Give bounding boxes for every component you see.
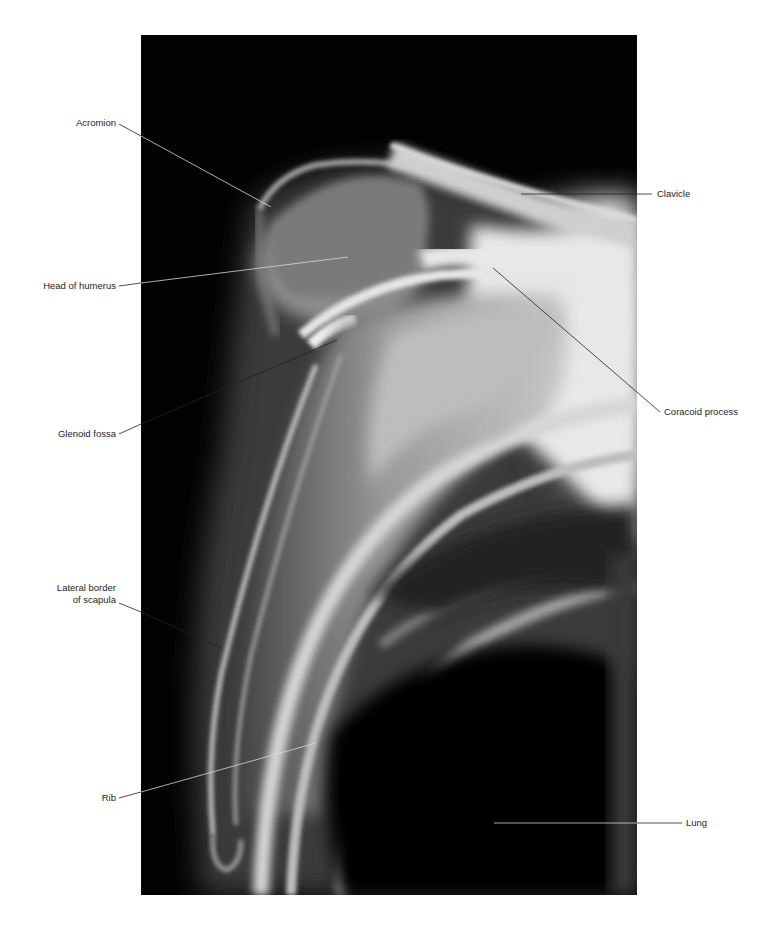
- leader-line-lateral-border: [119, 603, 141, 612]
- label-clavicle: Clavicle: [657, 188, 690, 200]
- leader-line-glenoid-fossa: [119, 424, 141, 434]
- label-coracoid-process: Coracoid process: [664, 406, 738, 418]
- shoulder-xray-image: [141, 35, 637, 895]
- leader-line-acromion: [119, 124, 141, 136]
- label-lateral-border-line1: Lateral border: [57, 582, 116, 594]
- label-lateral-border-line2: of scapula: [57, 594, 116, 606]
- label-glenoid-fossa: Glenoid fossa: [58, 428, 116, 440]
- label-lateral-border-of-scapula: Lateral border of scapula: [57, 582, 116, 606]
- anatomy-figure: Acromion Head of humerus Glenoid fossa L…: [0, 0, 774, 934]
- label-lung: Lung: [686, 817, 707, 829]
- leader-line-head-of-humerus: [119, 283, 141, 286]
- label-rib: Rib: [102, 792, 116, 804]
- label-acromion: Acromion: [76, 117, 116, 129]
- leader-line-rib: [119, 792, 141, 798]
- label-head-of-humerus: Head of humerus: [43, 280, 116, 292]
